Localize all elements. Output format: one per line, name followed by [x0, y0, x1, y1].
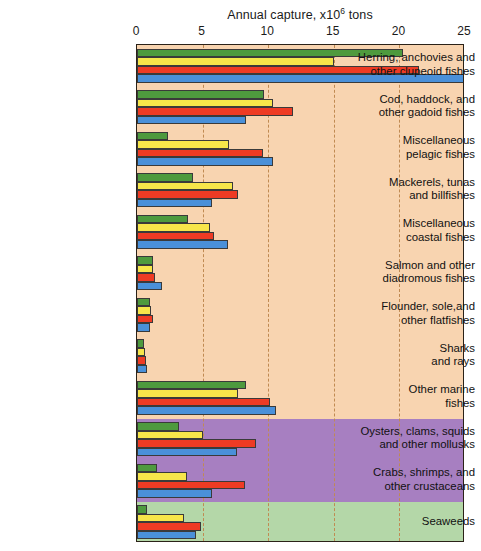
- bar: [137, 306, 151, 315]
- bar: [137, 298, 150, 307]
- category-label-line: Miscellaneous: [351, 134, 475, 147]
- bar-chart: Annual capture, x106 tons 0510152025 Her…: [0, 0, 481, 551]
- bar: [137, 215, 188, 224]
- x-axis-tick-10: 10: [261, 24, 274, 38]
- bar: [137, 90, 264, 99]
- bar: [137, 157, 273, 166]
- bar: [137, 531, 196, 540]
- bar: [137, 514, 184, 523]
- category-label-line: fishes: [351, 397, 475, 410]
- bar: [137, 282, 162, 291]
- category-label-line: Other marine: [351, 383, 475, 396]
- bar: [137, 431, 203, 440]
- category-label: Oysters, clams, squidsand other mollusks: [351, 425, 481, 452]
- category-label-line: and rays: [351, 355, 475, 368]
- bar: [137, 398, 270, 407]
- bar: [137, 381, 246, 390]
- category-label-line: Herring, anchovies and: [351, 51, 475, 64]
- bar: [137, 315, 153, 324]
- x-axis-tick-20: 20: [392, 24, 405, 38]
- x-axis-tick-0: 0: [133, 24, 140, 38]
- bar: [137, 190, 238, 199]
- category-label-line: other gadoid fishes: [351, 106, 475, 119]
- category-label-line: Cod, haddock, and: [351, 93, 475, 106]
- bar: [137, 107, 293, 116]
- bar: [137, 389, 238, 398]
- category-label: Cod, haddock, andother gadoid fishes: [351, 93, 481, 120]
- bar: [137, 448, 237, 457]
- category-label: Sharksand rays: [351, 342, 481, 369]
- bar: [137, 265, 153, 274]
- category-label: Other marinefishes: [351, 383, 481, 410]
- bar: [137, 406, 276, 415]
- chart-title-main: Annual capture, x10: [227, 8, 340, 22]
- bar: [137, 522, 201, 531]
- x-axis-tick-15: 15: [326, 24, 339, 38]
- category-label-line: Sharks: [351, 342, 475, 355]
- category-label-line: Miscellaneous: [351, 217, 475, 230]
- bar: [137, 348, 145, 357]
- category-label-line: other clupeoid fishes: [351, 65, 475, 78]
- bar: [137, 273, 155, 282]
- category-label-line: Oysters, clams, squids: [351, 425, 475, 438]
- bar: [137, 57, 334, 66]
- bar: [137, 356, 146, 365]
- bar: [137, 256, 153, 265]
- category-label: Salmon and otherdiadromous fishes: [351, 259, 481, 286]
- category-label-line: coastal fishes: [351, 231, 475, 244]
- category-label-line: and other mollusks: [351, 438, 475, 451]
- bar: [137, 173, 193, 182]
- category-label-line: Flounder, sole,and: [351, 300, 475, 313]
- category-label: Flounder, sole,andother flatfishes: [351, 300, 481, 327]
- bar: [137, 489, 212, 498]
- category-label-line: Seaweeds: [351, 515, 475, 528]
- bar: [137, 99, 273, 108]
- bar: [137, 223, 210, 232]
- bar: [137, 182, 233, 191]
- category-label-line: other crustaceans: [351, 480, 475, 493]
- bar: [137, 140, 229, 149]
- category-label: Mackerels, tunasand billfishes: [351, 176, 481, 203]
- bar: [137, 149, 263, 158]
- bar: [137, 232, 214, 241]
- bar: [137, 464, 157, 473]
- bar: [137, 422, 179, 431]
- bar: [137, 365, 147, 374]
- category-label-line: other flatfishes: [351, 314, 475, 327]
- bar: [137, 132, 168, 141]
- category-label: Seaweeds: [351, 515, 481, 528]
- category-label: Miscellaneouspelagic fishes: [351, 134, 481, 161]
- category-label: Herring, anchovies andother clupeoid fis…: [351, 51, 481, 78]
- bar: [137, 323, 150, 332]
- bar: [137, 472, 187, 481]
- bar: [137, 240, 228, 249]
- bar: [137, 439, 256, 448]
- bar: [137, 339, 144, 348]
- category-label-line: pelagic fishes: [351, 148, 475, 161]
- chart-title-units: tons: [345, 8, 373, 22]
- x-axis-tick-labels: 0510152025: [0, 24, 481, 40]
- bar: [137, 116, 246, 125]
- category-label-line: Salmon and other: [351, 259, 475, 272]
- bar: [137, 481, 245, 490]
- category-label-line: and billfishes: [351, 189, 475, 202]
- chart-title: Annual capture, x106 tons: [136, 8, 464, 22]
- x-axis-tick-25: 25: [457, 24, 470, 38]
- bar: [137, 199, 212, 208]
- x-axis-tick-5: 5: [198, 24, 205, 38]
- category-label: Miscellaneouscoastal fishes: [351, 217, 481, 244]
- category-label-line: Mackerels, tunas: [351, 176, 475, 189]
- category-label-line: Crabs, shrimps, and: [351, 466, 475, 479]
- category-label: Crabs, shrimps, andother crustaceans: [351, 466, 481, 493]
- bar: [137, 505, 147, 514]
- category-label-line: diadromous fishes: [351, 272, 475, 285]
